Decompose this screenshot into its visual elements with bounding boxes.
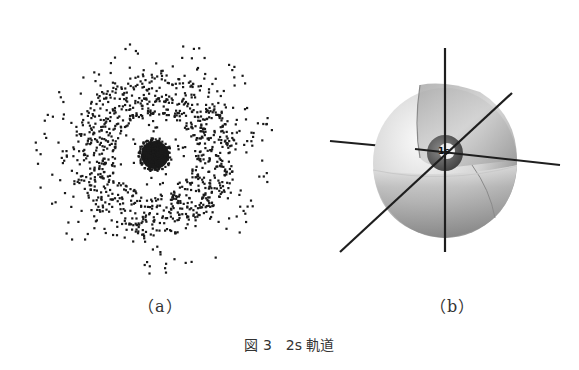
probability-dot (174, 220, 176, 222)
probability-dot (266, 172, 268, 174)
probability-dot (94, 176, 96, 178)
probability-dot (82, 150, 84, 152)
probability-dot (170, 159, 172, 161)
probability-dot (168, 114, 170, 116)
probability-dot (96, 190, 98, 192)
probability-dot (195, 155, 197, 157)
panel-b-label: （b） (430, 293, 475, 317)
probability-dot (135, 228, 137, 230)
probability-dot (203, 212, 205, 214)
probability-dot (116, 234, 118, 236)
probability-dot (147, 168, 149, 170)
probability-dot (103, 98, 105, 100)
probability-dot (84, 134, 86, 136)
probability-dot (120, 126, 122, 128)
probability-dot (207, 96, 209, 98)
probability-dot (166, 114, 168, 116)
probability-dot (138, 116, 140, 118)
probability-dot (177, 211, 179, 213)
probability-dot (164, 101, 166, 103)
probability-dot (201, 198, 203, 200)
probability-dot (109, 120, 111, 122)
probability-dot (215, 257, 217, 259)
probability-dot (110, 97, 112, 99)
probability-dot (163, 209, 165, 211)
probability-dot (227, 137, 229, 139)
probability-dot (245, 118, 247, 120)
probability-dot (165, 272, 167, 274)
probability-dot (166, 217, 168, 219)
probability-dot (63, 113, 65, 115)
probability-dot (98, 73, 100, 75)
probability-dot (168, 211, 170, 213)
probability-dot (205, 211, 207, 213)
probability-dot (177, 202, 179, 204)
probability-dot (62, 118, 64, 120)
probability-dot (184, 92, 186, 94)
probability-dot (84, 238, 86, 240)
probability-dot (179, 194, 181, 196)
probability-dot (204, 162, 206, 164)
probability-dot (146, 261, 148, 263)
probability-dot (219, 196, 221, 198)
probability-dot (165, 173, 167, 175)
probability-dot (168, 82, 170, 84)
probability-dot (197, 67, 199, 69)
probability-dot (131, 229, 133, 231)
probability-dot (135, 231, 137, 233)
probability-dot (251, 145, 253, 147)
orbital-sphere-diagram: 1s (320, 40, 570, 260)
probability-dot (195, 190, 197, 192)
probability-dot (153, 221, 155, 223)
probability-dot (165, 94, 167, 96)
probability-dot (120, 163, 122, 165)
probability-dot (177, 183, 179, 185)
probability-dot (159, 138, 161, 140)
probability-dot (108, 181, 110, 183)
probability-dot (261, 139, 263, 141)
probability-dot (94, 123, 96, 125)
probability-dot (208, 88, 210, 90)
probability-dot (76, 134, 78, 136)
probability-dot (125, 109, 127, 111)
probability-dot (158, 167, 160, 169)
probability-dot (175, 83, 177, 85)
probability-dot (161, 145, 163, 147)
probability-dot (206, 118, 208, 120)
probability-dot (169, 156, 171, 158)
probability-dot (166, 74, 168, 76)
probability-dot (197, 155, 199, 157)
probability-dot (194, 96, 196, 98)
probability-dot (167, 164, 169, 166)
probability-dot (218, 115, 220, 117)
probability-dot (198, 159, 200, 161)
probability-dot (159, 205, 161, 207)
probability-dot (141, 86, 143, 88)
probability-dot (162, 182, 164, 184)
probability-dot (156, 246, 158, 248)
probability-dot (73, 148, 75, 150)
probability-dot (76, 159, 78, 161)
probability-dot (161, 78, 163, 80)
probability-dot (152, 104, 154, 106)
probability-dot (178, 148, 180, 150)
probability-dot (148, 101, 150, 103)
probability-dot (213, 109, 215, 111)
probability-dot (62, 101, 64, 103)
probability-dot (95, 220, 97, 222)
probability-dot (204, 73, 206, 75)
probability-dot (149, 109, 151, 111)
probability-dot (231, 137, 233, 139)
probability-dot (193, 109, 195, 111)
probability-dot (126, 185, 128, 187)
probability-dot (199, 204, 201, 206)
probability-dot (171, 102, 173, 104)
probability-dot (187, 223, 189, 225)
probability-dot (185, 227, 187, 229)
probability-dot (120, 208, 122, 210)
probability-dot (220, 163, 222, 165)
probability-dot (197, 214, 199, 216)
probability-dot (167, 159, 169, 161)
probability-dot (162, 155, 164, 157)
probability-dot (92, 200, 94, 202)
